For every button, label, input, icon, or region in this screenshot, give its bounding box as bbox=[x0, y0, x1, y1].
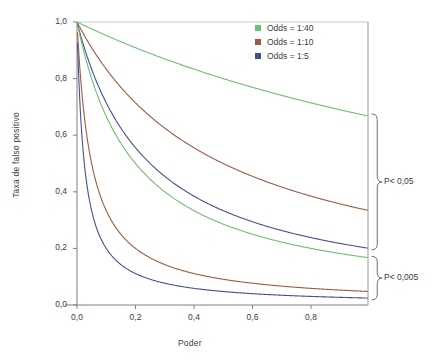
legend-item: Odds = 1:10 bbox=[255, 36, 314, 48]
x-tick-label: 0,4 bbox=[181, 312, 207, 322]
legend-item: Odds = 1:40 bbox=[255, 22, 314, 34]
y-tick-label: 1,0 bbox=[41, 16, 67, 26]
y-tick-label: 0,0 bbox=[41, 299, 67, 309]
legend-swatch-green bbox=[255, 25, 261, 31]
y-tick-label: 0,8 bbox=[41, 73, 67, 83]
chart-legend: Odds = 1:40 Odds = 1:10 Odds = 1:5 bbox=[255, 22, 314, 64]
brace-p005 bbox=[372, 256, 382, 300]
brace-p05 bbox=[372, 114, 382, 250]
x-tick-label: 0,6 bbox=[240, 312, 266, 322]
x-tick-label: 0,0 bbox=[64, 312, 90, 322]
y-tick-label: 0,2 bbox=[41, 242, 67, 252]
x-axis-title: Poder bbox=[178, 338, 202, 348]
y-tick-label: 0,4 bbox=[41, 186, 67, 196]
annotation-label-p005: P< 0,005 bbox=[384, 272, 418, 282]
legend-label: Odds = 1:5 bbox=[267, 51, 309, 61]
annotation-label-p05: P< 0,05 bbox=[384, 176, 414, 186]
chart-figure: Taxa de falso positivo Poder 0,00,20,40,… bbox=[0, 0, 437, 359]
legend-swatch-blue bbox=[255, 53, 261, 59]
legend-swatch-brown bbox=[255, 39, 261, 45]
legend-item: Odds = 1:5 bbox=[255, 50, 314, 62]
y-tick-label: 0,6 bbox=[41, 129, 67, 139]
legend-label: Odds = 1:40 bbox=[267, 23, 314, 33]
y-axis-title: Taxa de falso positivo bbox=[11, 95, 21, 215]
x-tick-label: 0,8 bbox=[298, 312, 324, 322]
legend-label: Odds = 1:10 bbox=[267, 37, 314, 47]
x-tick-label: 0,2 bbox=[123, 312, 149, 322]
